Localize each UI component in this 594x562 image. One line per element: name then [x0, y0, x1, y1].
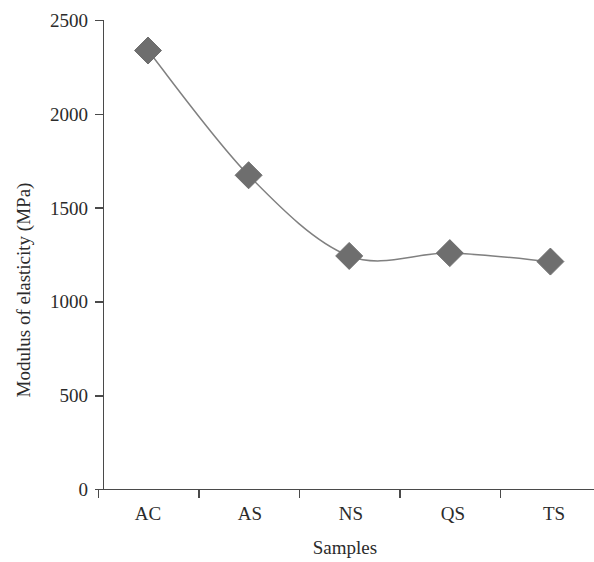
y-tick-label: 1500	[50, 198, 88, 219]
y-tick-label: 500	[60, 385, 89, 406]
x-tick-label-ac: AC	[135, 503, 161, 524]
y-axis-title: Modulus of elasticity (MPa)	[13, 183, 35, 398]
x-axis-title: Samples	[313, 537, 377, 558]
x-tick-label-as: AS	[238, 503, 262, 524]
y-tick-label: 2500	[50, 10, 88, 31]
x-tick-label-ts: TS	[543, 503, 565, 524]
x-tick-label-ns: NS	[339, 503, 363, 524]
chart-figure: 2500 2000 1500 1000 500 0 AC AS NS QS TS…	[0, 0, 594, 562]
chart-background	[0, 0, 594, 562]
x-tick-label-qs: QS	[441, 503, 465, 524]
y-tick-label: 2000	[50, 104, 88, 125]
y-tick-label: 0	[79, 479, 89, 500]
y-tick-label: 1000	[50, 291, 88, 312]
line-chart-canvas: 2500 2000 1500 1000 500 0 AC AS NS QS TS…	[0, 0, 594, 562]
